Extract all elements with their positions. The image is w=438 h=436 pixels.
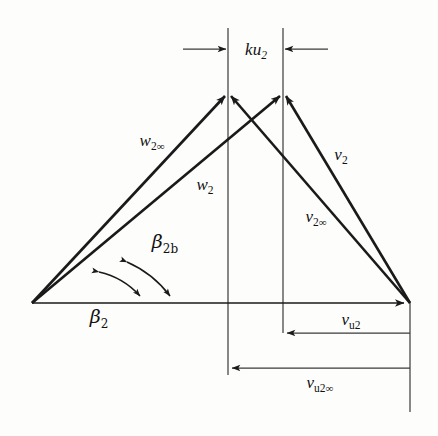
label-w2-base: w [196, 175, 208, 194]
label-beta-2-sub: 2 [101, 317, 109, 331]
angle-arcs-group [99, 262, 170, 296]
label-ku2: ku2 [245, 40, 267, 61]
label-beta-2b-sub: 2b [163, 242, 179, 256]
label-v2-infinity-inf: ∞ [319, 216, 327, 228]
label-vu2-infinity: vu2∞ [307, 373, 334, 394]
labels-group: ku2 w2∞ w2 v2 v2∞ β2b β2 vu2 [89, 40, 361, 394]
label-v2: v2 [334, 145, 348, 166]
label-beta-2b-base: β [151, 230, 163, 252]
label-w2: w2 [196, 175, 213, 196]
velocity-triangle-figure: ku2 w2∞ w2 v2 v2∞ β2b β2 vu2 [0, 0, 438, 436]
label-v2-infinity: v2∞ [305, 207, 326, 228]
angle-arc-beta-2 [99, 272, 140, 296]
label-w2-infinity: w2∞ [140, 131, 165, 152]
label-beta-2-base: β [89, 305, 101, 327]
label-beta-2: β2 [89, 305, 109, 331]
label-w2-infinity-inf: ∞ [157, 140, 165, 152]
label-v2-sub: 2 [342, 154, 348, 166]
label-beta-2b: β2b [151, 230, 179, 256]
vector-v2-infinity [231, 96, 410, 303]
label-vu2-infinity-inf: ∞ [326, 382, 334, 394]
vector-w2 [32, 96, 280, 303]
label-vu2-sub: u2 [349, 319, 361, 331]
velocity-triangle-canvas: ku2 w2∞ w2 v2 v2∞ β2b β2 vu2 [0, 0, 438, 436]
label-w2-infinity-base: w [140, 131, 152, 150]
label-vu2-infinity-sub: u2 [314, 382, 326, 394]
label-vu2: vu2 [341, 310, 360, 331]
label-w2-sub: 2 [208, 184, 214, 196]
vector-group [32, 96, 410, 303]
vector-w2-infinity [32, 96, 225, 303]
label-ku2-sub: 2 [261, 49, 267, 61]
angle-arc-beta-2b [127, 262, 170, 296]
vector-v2 [286, 96, 410, 303]
label-ku2-var: u [253, 40, 262, 59]
